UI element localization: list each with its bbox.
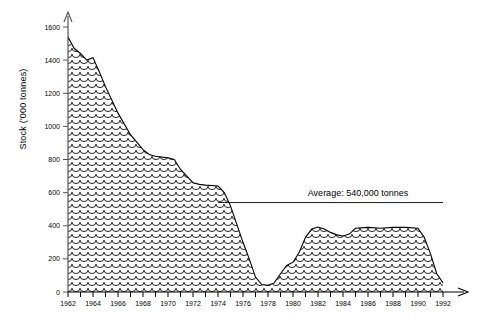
x-tick-label: 1968 [135, 300, 151, 307]
x-tick-label: 1962 [60, 300, 76, 307]
x-tick-label: 1990 [410, 300, 426, 307]
x-tick-label: 1980 [285, 300, 301, 307]
y-tick-label: 1200 [44, 90, 60, 97]
series-fill [68, 37, 443, 292]
chart-container: Stock ('000 tonnes) 02004006008001000120… [0, 0, 479, 317]
x-tick-label: 1992 [435, 300, 451, 307]
annotations: Average: 540,000 tonnes [218, 188, 443, 203]
y-axis-title: Stock ('000 tonnes) [18, 44, 28, 174]
y-tick-label: 1400 [44, 57, 60, 64]
area-chart-plot: 0200400600800100012001400160019621964196… [0, 0, 479, 317]
x-tick-label: 1970 [160, 300, 176, 307]
x-tick-label: 1976 [235, 300, 251, 307]
x-tick-label: 1972 [185, 300, 201, 307]
y-tick-label: 1600 [44, 24, 60, 31]
y-tick-label: 400 [48, 222, 60, 229]
x-tick-label: 1978 [260, 300, 276, 307]
y-tick-label: 800 [48, 156, 60, 163]
y-tick-label: 600 [48, 189, 60, 196]
y-tick-label: 200 [48, 255, 60, 262]
x-tick-label: 1988 [385, 300, 401, 307]
y-tick-label: 1000 [44, 123, 60, 130]
x-tick-label: 1984 [335, 300, 351, 307]
x-tick-label: 1974 [210, 300, 226, 307]
x-tick-label: 1964 [85, 300, 101, 307]
x-tick-label: 1966 [110, 300, 126, 307]
x-tick-label: 1986 [360, 300, 376, 307]
y-tick-label: 0 [56, 289, 60, 296]
x-tick-label: 1982 [310, 300, 326, 307]
series-area [68, 37, 443, 292]
average-label: Average: 540,000 tonnes [308, 188, 409, 198]
